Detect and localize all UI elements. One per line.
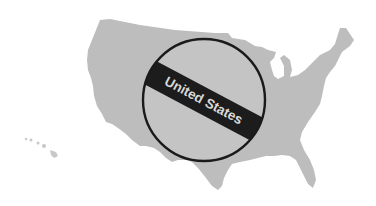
hawaii-islands: [25, 138, 58, 158]
us-map-svg: United States: [0, 0, 376, 206]
us-map-graphic: United States: [0, 0, 376, 206]
